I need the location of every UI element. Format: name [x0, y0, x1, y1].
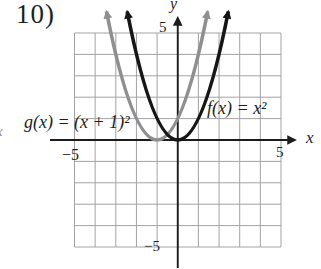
parabola-graph [0, 0, 321, 269]
worksheet-figure: 10) g(x) = (x + 1)² f(x) = x² y x 5 −5 −… [0, 0, 321, 269]
x-tick-neg5: −5 [62, 147, 79, 163]
x-tick-5: 5 [276, 145, 284, 160]
clipped-edge-text: x [0, 124, 3, 139]
axes [50, 18, 295, 268]
y-tick-neg5: −5 [144, 239, 160, 254]
y-tick-5: 5 [159, 20, 167, 35]
g-function-label: g(x) = (x + 1)² [24, 113, 130, 131]
y-axis-label: y [170, 0, 177, 12]
f-function-label: f(x) = x² [207, 99, 267, 117]
x-axis-label: x [306, 129, 314, 146]
problem-number: 10) [16, 1, 55, 28]
